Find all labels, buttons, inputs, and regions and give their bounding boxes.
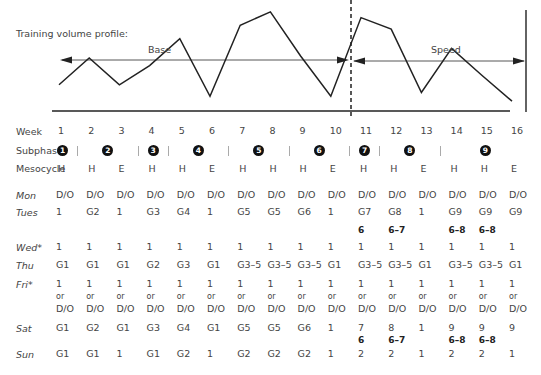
day-cell: 1 xyxy=(116,348,122,360)
day-cell: 1 xyxy=(147,241,153,253)
mesocycle-value: H xyxy=(58,163,65,175)
day-label-fri: Fri* xyxy=(16,279,33,290)
mesocycle-value: H xyxy=(451,163,458,175)
week-number: 11 xyxy=(360,125,372,137)
mesocycle-value: E xyxy=(209,163,215,175)
day-cell: 1orD/O xyxy=(509,278,527,315)
day-cell: 1 xyxy=(388,241,394,253)
day-cell: G76 xyxy=(358,206,371,236)
day-cell: G5 xyxy=(267,206,280,218)
day-label-thu: Thu xyxy=(16,260,34,271)
day-cell: 96–8 xyxy=(479,322,496,346)
day-label-wed: Wed* xyxy=(16,242,42,253)
day-cell: G9 xyxy=(509,206,522,218)
mesocycle-value: E xyxy=(118,163,124,175)
subphase-separator xyxy=(228,146,229,156)
subphase-separator xyxy=(440,146,441,156)
week-number: 2 xyxy=(88,125,94,137)
day-cell: 1orD/O xyxy=(86,278,104,315)
day-cell: G1 xyxy=(116,259,129,271)
day-cell: G6 xyxy=(298,206,311,218)
day-cell: 1orD/O xyxy=(147,278,165,315)
day-cell: G3–5 xyxy=(449,259,473,271)
day-label-sat: Sat xyxy=(16,323,32,334)
day-cell: G2 xyxy=(267,348,280,360)
week-label: Week xyxy=(16,126,42,137)
mesocycle-value: H xyxy=(239,163,246,175)
week-number: 1 xyxy=(58,125,64,137)
day-cell: G6 xyxy=(298,322,311,334)
day-cell: 1 xyxy=(56,241,62,253)
mesocycle-value: H xyxy=(269,163,276,175)
day-cell: 1 xyxy=(418,241,424,253)
day-cell: 1orD/O xyxy=(56,278,74,315)
week-number: 8 xyxy=(269,125,275,137)
day-cell: 1 xyxy=(207,348,213,360)
day-cell: 1 xyxy=(418,206,424,218)
day-cell: G1 xyxy=(509,259,522,271)
week-number: 12 xyxy=(390,125,402,137)
subphase-badge: 2 xyxy=(102,145,113,156)
mesocycle-value: E xyxy=(330,163,336,175)
day-cell: G3–5 xyxy=(388,259,412,271)
day-cell: D/O xyxy=(358,189,376,201)
mesocycle-value: E xyxy=(511,163,517,175)
day-cell: 1orD/O xyxy=(116,278,134,315)
day-cell: G3 xyxy=(177,259,190,271)
day-cell: 2 xyxy=(388,348,394,360)
mesocycle-value: H xyxy=(300,163,307,175)
day-cell: G1 xyxy=(56,259,69,271)
subphase-separator xyxy=(168,146,169,156)
day-cell: D/O xyxy=(479,189,497,201)
day-cell: G4 xyxy=(177,322,190,334)
day-cell: G96–8 xyxy=(449,206,466,236)
day-cell: 2 xyxy=(449,348,455,360)
subphase-separator xyxy=(138,146,139,156)
day-cell: 1 xyxy=(509,348,515,360)
day-cell: 1 xyxy=(56,206,62,218)
day-cell: 1 xyxy=(418,322,424,334)
day-cell: G3–5 xyxy=(479,259,503,271)
day-cell: 1 xyxy=(358,241,364,253)
day-cell: 1 xyxy=(418,348,424,360)
day-cell: 1orD/O xyxy=(298,278,316,315)
week-number: 4 xyxy=(149,125,155,137)
day-cell: D/O xyxy=(267,189,285,201)
day-cell: 1orD/O xyxy=(418,278,436,315)
subphase-separator xyxy=(77,146,78,156)
week-number: 3 xyxy=(118,125,124,137)
subphase-badge: 7 xyxy=(359,145,370,156)
day-cell: G1 xyxy=(56,348,69,360)
subphase-badge: 3 xyxy=(148,145,159,156)
day-cell: 2 xyxy=(479,348,485,360)
day-cell: 1orD/O xyxy=(237,278,255,315)
day-cell: G1 xyxy=(207,322,220,334)
subphase-separator xyxy=(289,146,290,156)
subphase-badge: 6 xyxy=(314,145,325,156)
day-cell: 1 xyxy=(116,241,122,253)
phase-label-speed: Speed xyxy=(431,44,461,55)
day-cell: G1 xyxy=(328,259,341,271)
week-number: 7 xyxy=(239,125,245,137)
week-number: 14 xyxy=(451,125,463,137)
day-cell: G4 xyxy=(177,206,190,218)
mesocycle-value: H xyxy=(179,163,186,175)
day-cell: 1 xyxy=(328,241,334,253)
week-number: 16 xyxy=(511,125,523,137)
day-cell: D/O xyxy=(298,189,316,201)
day-cell: G1 xyxy=(56,322,69,334)
day-cell: 2 xyxy=(358,348,364,360)
mesocycle-value: H xyxy=(360,163,367,175)
subphase-badge: 5 xyxy=(253,145,264,156)
day-cell: 1 xyxy=(328,348,334,360)
day-cell: G1 xyxy=(86,348,99,360)
phase-label-base: Base xyxy=(148,44,171,55)
day-cell: 1orD/O xyxy=(207,278,225,315)
day-cell: G2 xyxy=(86,206,99,218)
day-cell: 1 xyxy=(86,241,92,253)
day-cell: D/O xyxy=(56,189,74,201)
subphase-separator xyxy=(379,146,380,156)
mesocycle-value: H xyxy=(481,163,488,175)
mesocycle-value: E xyxy=(420,163,426,175)
day-cell: D/O xyxy=(86,189,104,201)
